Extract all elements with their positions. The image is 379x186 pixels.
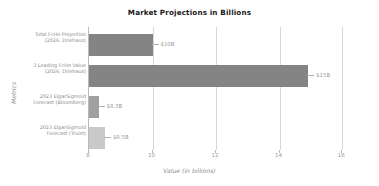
data-label-value: $10B (159, 41, 175, 47)
data-label-3: $8.5B (104, 133, 129, 141)
bar-total-fchn-projection[interactable] (89, 34, 153, 56)
x-tick-label-16: 16 (338, 152, 345, 158)
y-category-label-1: 3 Leading FcHn Value (2026, Driehaus) (12, 62, 86, 74)
y-category-line2: Forecast (Bloomberg) (12, 99, 86, 105)
data-label-0: $10B (152, 40, 175, 48)
bar-3-leading-fchn-value[interactable] (89, 65, 308, 87)
gridline-16 (342, 27, 343, 150)
leader-line-icon (307, 75, 314, 76)
chart-title: Market Projections in Billions (0, 8, 379, 17)
chart-figure: Market Projections in Billions Metrics T… (0, 0, 379, 186)
x-axis-title: Value (in billions) (0, 167, 379, 174)
data-label-2: $8.3B (98, 102, 123, 110)
leader-line-icon (152, 44, 159, 45)
y-category-line2: Forecast (Truist) (12, 130, 86, 136)
y-category-line2: (2026, Driehaus) (12, 68, 86, 74)
y-category-label-2: 2023 ElgarSigmoid Forecast (Bloomberg) (12, 93, 86, 105)
y-category-label-3: 2023 ElgarSigmoid Forecast (Truist) (12, 124, 86, 136)
bar-2023-elgarsigmoid-truist[interactable] (89, 127, 105, 149)
y-category-line2: (2026, Driehaus) (12, 37, 86, 43)
leader-line-icon (98, 106, 105, 107)
data-label-value: $8.5B (111, 134, 129, 140)
gridline-12 (216, 27, 217, 150)
x-tick-label-10: 10 (148, 152, 155, 158)
data-label-value: $15B (314, 72, 330, 78)
plot-area (88, 27, 342, 150)
data-label-1: $15B (307, 71, 330, 79)
leader-line-icon (104, 137, 111, 138)
x-tick-label-8: 8 (86, 152, 90, 158)
data-label-value: $8.3B (105, 103, 123, 109)
x-tick-label-14: 14 (275, 152, 282, 158)
gridline-14 (280, 27, 281, 150)
y-category-label-0: Total FcHn Projection (2026, Driehaus) (12, 31, 86, 43)
x-tick-label-12: 12 (211, 152, 218, 158)
